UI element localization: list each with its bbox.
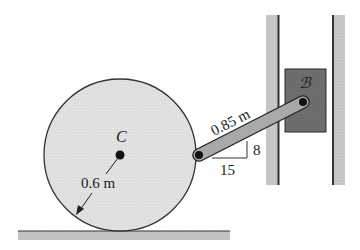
radius-label: 0.6 m <box>81 175 116 191</box>
mechanism-diagram: ℬ 0.6 m C 8 15 0.85 m <box>0 0 360 250</box>
pin-a-icon <box>195 151 203 159</box>
ground <box>18 231 230 240</box>
center-label: C <box>116 128 127 145</box>
guide-wall-left <box>266 15 280 185</box>
pin-b-icon <box>299 98 307 106</box>
slope-rise-label: 8 <box>253 142 261 158</box>
slope-run-label: 15 <box>220 162 235 178</box>
guide-wall-right <box>332 15 345 185</box>
block-label: ℬ <box>299 75 312 91</box>
